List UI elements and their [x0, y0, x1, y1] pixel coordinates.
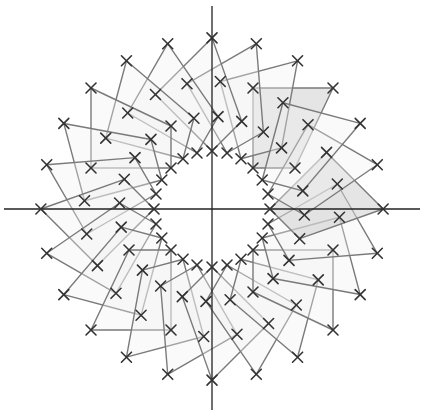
rotational-diagram: [0, 0, 424, 414]
